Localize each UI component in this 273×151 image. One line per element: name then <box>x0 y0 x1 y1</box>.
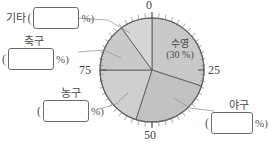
worksheet-canvas: 0 25 50 75 수영 (30 %) 기타 ( %) 축구 ( %) 농구 … <box>0 0 273 151</box>
callout-soccer: 축구 ( %) <box>2 36 69 70</box>
callout-baseball-open-paren: ( <box>205 117 209 129</box>
callout-other-label: 기타 <box>6 13 25 24</box>
callout-other-percent: %) <box>81 13 94 24</box>
answer-box-other[interactable] <box>33 7 79 29</box>
callout-basketball-open-paren: ( <box>37 105 41 117</box>
callout-soccer-percent: %) <box>56 54 69 65</box>
dial-number-0: 0 <box>146 0 152 11</box>
callout-basketball-label: 농구 <box>61 88 104 99</box>
callout-soccer-open-paren: ( <box>2 53 6 65</box>
answer-box-basketball[interactable] <box>43 100 89 122</box>
slice-caption-swimming-name: 수영 <box>152 38 208 49</box>
callout-soccer-label: 축구 <box>24 36 69 47</box>
callout-other-open-paren: ( <box>27 12 31 24</box>
answer-box-baseball[interactable] <box>211 112 253 134</box>
answer-box-soccer[interactable] <box>8 48 54 70</box>
callout-basketball-percent: %) <box>91 106 104 117</box>
callout-baseball-percent: %) <box>255 118 268 129</box>
dial-number-75: 75 <box>79 64 91 76</box>
callout-other: 기타 ( %) <box>6 7 94 29</box>
callout-baseball-label: 야구 <box>229 100 268 111</box>
callout-basketball: 농구 ( %) <box>37 88 104 122</box>
dial-number-50: 50 <box>144 129 156 141</box>
slice-caption-swimming: 수영 (30 %) <box>152 38 208 60</box>
slice-caption-swimming-value: (30 %) <box>152 49 208 60</box>
callout-baseball: 야구 ( %) <box>205 100 268 134</box>
dial-number-25: 25 <box>208 64 220 76</box>
